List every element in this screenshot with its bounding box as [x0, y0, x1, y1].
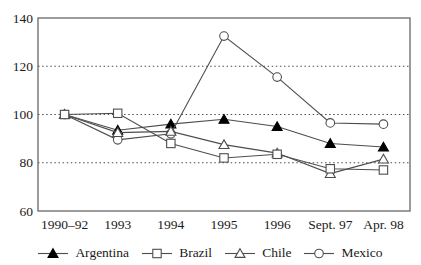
- chart-legend: ArgentinaBrazilChileMexico: [0, 245, 421, 261]
- line-chart: 60801001201401990–921993199419951996Sept…: [0, 0, 421, 265]
- legend-item-brazil: Brazil: [142, 245, 212, 261]
- argentina-legend-marker-icon: [38, 247, 68, 260]
- x-tick-label: 1996: [264, 217, 291, 232]
- legend-item-chile: Chile: [225, 245, 291, 261]
- mexico-legend-marker-icon: [304, 247, 334, 260]
- brazil-marker-icon: [167, 139, 175, 147]
- brazil-marker-icon: [60, 110, 68, 118]
- brazil-marker-icon: [326, 165, 334, 173]
- legend-label: Chile: [262, 245, 291, 261]
- x-tick-label: 1990–92: [41, 217, 88, 232]
- y-tick-label: 60: [20, 204, 34, 219]
- brazil-marker-icon: [220, 154, 228, 162]
- x-tick-label: 1994: [157, 217, 184, 232]
- mexico-marker-icon: [326, 119, 335, 128]
- plot-area: 60801001201401990–921993199419951996Sept…: [0, 0, 421, 265]
- chile-marker-icon: [378, 154, 388, 163]
- legend-item-argentina: Argentina: [38, 245, 129, 261]
- mexico-marker-icon: [379, 120, 388, 129]
- brazil-legend-marker-icon: [142, 247, 172, 260]
- mexico-marker-icon: [220, 32, 229, 41]
- x-tick-label: Apr. 98: [363, 217, 404, 232]
- legend-label: Argentina: [75, 245, 129, 261]
- argentina-marker-icon: [219, 115, 229, 124]
- mexico-line: [65, 36, 384, 140]
- y-tick-label: 140: [13, 11, 34, 26]
- mexico-marker-icon: [315, 249, 324, 258]
- brazil-marker-icon: [153, 249, 161, 257]
- x-tick-label: 1995: [211, 217, 238, 232]
- x-tick-label: 1993: [104, 217, 131, 232]
- y-tick-label: 80: [20, 155, 34, 170]
- brazil-marker-icon: [273, 150, 281, 158]
- brazil-marker-icon: [379, 166, 387, 174]
- brazil-marker-icon: [114, 109, 122, 117]
- mexico-marker-icon: [273, 73, 282, 82]
- chile-legend-marker-icon: [225, 247, 255, 260]
- legend-item-mexico: Mexico: [304, 245, 382, 261]
- argentina-marker-icon: [325, 139, 335, 148]
- y-tick-label: 100: [13, 107, 34, 122]
- x-tick-label: Sept. 97: [308, 217, 353, 232]
- y-tick-label: 120: [13, 59, 34, 74]
- legend-label: Brazil: [179, 245, 212, 261]
- legend-label: Mexico: [341, 245, 382, 261]
